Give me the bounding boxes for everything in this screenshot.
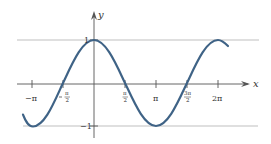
svg-text:π: π: [123, 90, 127, 96]
x-tick-label-two-pi: 2π: [212, 94, 222, 103]
cosine-graph: x y 1 −1 −π π 2: [0, 0, 271, 144]
y-tick-label-neg-1: −1: [80, 122, 92, 131]
svg-text:π: π: [65, 90, 69, 96]
x-tick-label-half-pi: π 2: [123, 90, 129, 103]
svg-text:2: 2: [186, 97, 190, 103]
x-axis-label: x: [253, 78, 259, 89]
x-tick-label-three-half-pi: 3π 2: [184, 90, 191, 103]
svg-text:2: 2: [124, 97, 128, 103]
svg-text:2: 2: [66, 97, 70, 103]
x-tick-label-neg-half-pi: π 2: [59, 90, 70, 103]
svg-text:3π: 3π: [184, 90, 191, 96]
x-tick-label-neg-pi: −π: [25, 94, 37, 103]
cosine-curve: [23, 40, 228, 127]
y-axis-label: y: [97, 9, 104, 20]
x-tick-label-pi: π: [153, 94, 158, 103]
y-tick-label-1: 1: [84, 36, 89, 45]
chart-canvas: x y 1 −1 −π π 2: [0, 0, 271, 144]
